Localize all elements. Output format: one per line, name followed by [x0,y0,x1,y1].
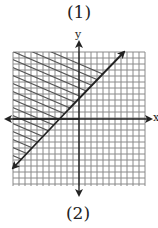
y-axis-label: y [75,29,81,40]
shaded-region [0,30,140,228]
boundary-line [68,52,124,110]
figure-label-bottom: (2) [0,205,156,222]
x-axis-label: x [153,112,158,123]
